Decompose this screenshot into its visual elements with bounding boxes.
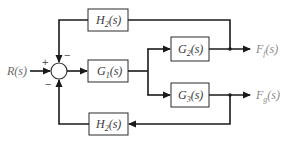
sign-plus-input: +	[42, 56, 48, 68]
output-label-Ff: Ff(s)	[255, 42, 278, 58]
summing-junction	[51, 63, 67, 79]
svg-text:H2(s): H2(s)	[95, 13, 121, 29]
svg-text:G3(s): G3(s)	[178, 88, 203, 104]
block-H2-top: H2(s)	[88, 9, 128, 31]
block-G3: G3(s)	[171, 83, 209, 107]
svg-text:G2(s): G2(s)	[178, 42, 203, 58]
sign-minus-top: −	[64, 49, 70, 61]
bottom-feedback-left-arrow	[59, 80, 89, 124]
block-diagram: R(s) + − − G1(s) G2(s) G3(s) Ff(s) Fg(s)…	[0, 0, 285, 144]
input-label-R: R(s)	[6, 64, 27, 78]
svg-text:H2(s): H2(s)	[95, 117, 121, 133]
svg-text:G1(s): G1(s)	[97, 64, 122, 80]
block-G1: G1(s)	[88, 60, 128, 82]
block-G2: G2(s)	[171, 37, 209, 61]
sign-minus-bottom: −	[45, 78, 51, 90]
output-label-Fg: Fg(s)	[255, 88, 280, 104]
block-H2-bottom: H2(s)	[89, 113, 128, 135]
